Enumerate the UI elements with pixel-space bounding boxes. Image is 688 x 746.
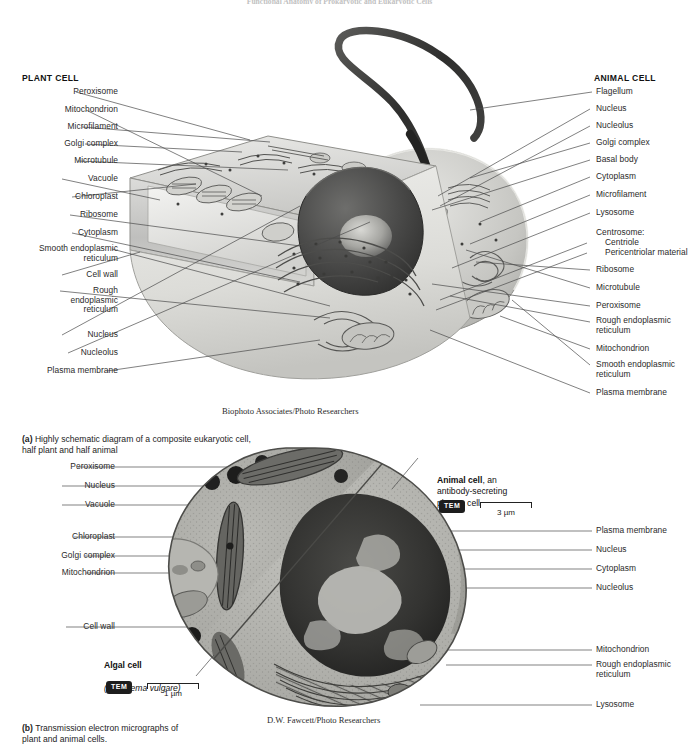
panel-b-label-lysosome: Lysosome <box>596 700 634 710</box>
scale-bar-animal: 3 µm <box>480 502 532 520</box>
panel-a-label-vacuole: Vacuole <box>0 174 118 184</box>
animal-cell-heading: ANIMAL CELL <box>594 73 656 83</box>
panel-a-label-cytoplasm: Cytoplasm <box>596 172 636 182</box>
panel-a-label-chloroplast: Chloroplast <box>0 192 118 202</box>
panel-a-label-nucleolus: Nucleolus <box>0 348 118 358</box>
panel-a-label-plasma-membrane: Plasma membrane <box>596 388 667 398</box>
eukaryotic-cell-diagram <box>118 18 562 398</box>
panel-a-label-cell-wall: Cell wall <box>0 270 118 280</box>
panel-a-label-microfilament: Microfilament <box>596 190 646 200</box>
panel-b-label-rough-endoplasmic-reticulum: Rough endoplasmic reticulum <box>596 660 671 679</box>
panel-a-caption-marker: (a) <box>22 434 33 444</box>
panel-a-label-smooth-endoplasmic-reticulum: Smooth endoplasmic reticulum <box>0 244 118 263</box>
panel-a-label-basal-body: Basal body <box>596 155 638 165</box>
panel-b-label-nucleus: Nucleus <box>596 545 627 555</box>
panel-a-label-rough-endoplasmic-reticulum: Rough endoplasmic reticulum <box>0 286 118 315</box>
panel-a-label-peroxisome: Peroxisome <box>596 301 641 311</box>
panel-b-label-nucleolus: Nucleolus <box>596 583 633 593</box>
panel-b-label-mitochondrion: Mitochondrion <box>596 645 649 655</box>
tem-badge-animal: TEM <box>439 500 465 513</box>
panel-b-caption-text: Transmission electron micrographs of pla… <box>22 723 178 745</box>
panel-a-label-microtubule: Microtubule <box>0 156 118 166</box>
panel-b-label-nucleus: Nucleus <box>0 481 115 491</box>
panel-a-label-nucleus: Nucleus <box>0 330 118 340</box>
panel-a-credit: Biophoto Associates/Photo Researchers <box>222 406 359 416</box>
panel-a-label-ribosome: Ribosome <box>0 210 118 220</box>
panel-b-label-peroxisome: Peroxisome <box>0 462 115 472</box>
plant-cell-heading: PLANT CELL <box>22 73 79 83</box>
panel-a-label-plasma-membrane: Plasma membrane <box>0 366 118 376</box>
panel-a-label-flagellum: Flagellum <box>596 87 633 97</box>
panel-a-label-microtubule: Microtubule <box>596 283 640 293</box>
panel-a-label-pericentriolar-material: Pericentriolar material <box>605 248 688 258</box>
nucleus-shape <box>298 167 423 295</box>
panel-a-label-lysosome: Lysosome <box>596 208 634 218</box>
panel-a-label-mitochondrion: Mitochondrion <box>596 344 649 354</box>
panel-b-label-golgi-complex: Golgi complex <box>0 551 115 561</box>
algal-cell-note-title: Algal cell <box>104 660 142 670</box>
panel-a-label-golgi-complex: Golgi complex <box>0 139 118 149</box>
tem-badge-algal: TEM <box>106 681 132 694</box>
page-running-head: Functional Anatomy of Prokaryotic and Eu… <box>0 0 679 4</box>
panel-b-label-chloroplast: Chloroplast <box>0 532 115 542</box>
panel-a-label-microfilament: Microfilament <box>0 122 118 132</box>
panel-b-label-cytoplasm: Cytoplasm <box>596 564 636 574</box>
panel-b-caption: (b) Transmission electron micrographs of… <box>22 711 322 746</box>
animal-cell-note-title: Animal cell <box>437 475 482 485</box>
panel-a-label-smooth-endoplasmic-reticulum: Smooth endoplasmic reticulum <box>596 360 675 379</box>
panel-a-label-nucleus: Nucleus <box>596 104 627 114</box>
panel-b-label-mitochondrion: Mitochondrion <box>0 568 115 578</box>
panel-a-label-rough-endoplasmic-reticulum: Rough endoplasmic reticulum <box>596 316 671 335</box>
scale-bar-algal-text: 1 µm <box>147 689 199 698</box>
panel-a-label-peroxisome: Peroxisome <box>0 87 118 97</box>
panel-a-label-mitochondrion: Mitochondrion <box>0 105 118 115</box>
panel-b-label-plasma-membrane: Plasma membrane <box>596 526 667 536</box>
panel-b-caption-marker: (b) <box>22 723 33 733</box>
panel-a-label-cytoplasm: Cytoplasm <box>0 228 118 238</box>
panel-a-label-ribosome: Ribosome <box>596 265 634 275</box>
tem-micrograph-composite <box>150 446 480 708</box>
cell-illustration-svg <box>118 18 562 398</box>
panel-a-label-golgi-complex: Golgi complex <box>596 138 650 148</box>
panel-a-label-nucleolus: Nucleolus <box>596 121 633 131</box>
panel-b-label-vacuole: Vacuole <box>0 500 115 510</box>
panel-b-label-cell-wall: Cell wall <box>0 622 115 632</box>
micrograph-svg <box>150 446 480 708</box>
scale-bar-algal: 1 µm <box>147 683 199 701</box>
scale-bar-animal-text: 3 µm <box>480 508 532 517</box>
